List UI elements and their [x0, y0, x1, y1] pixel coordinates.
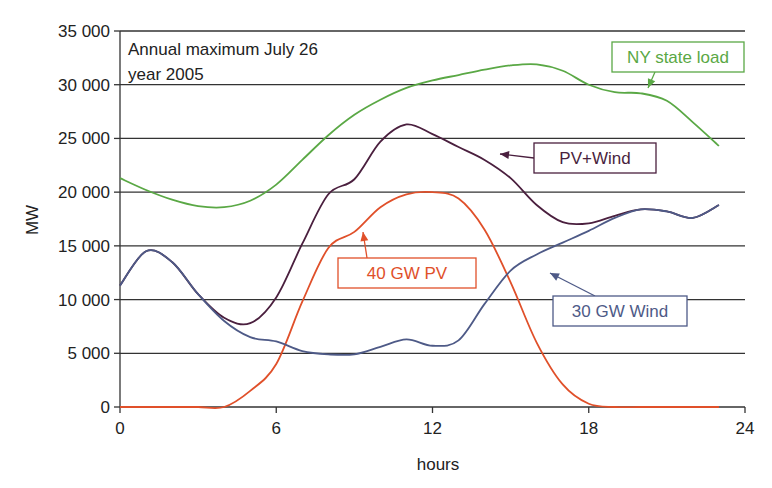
x-tick-label: 6 — [272, 419, 281, 438]
y-tick-label: 5 000 — [67, 344, 110, 363]
x-tick-labels: 06121824 — [115, 419, 754, 438]
callout-30-gw-wind: 30 GW Wind — [550, 273, 687, 326]
callout-text: NY state load — [627, 48, 729, 67]
callout-ny-state-load: NY state load — [612, 42, 744, 88]
series-lines — [120, 64, 719, 408]
y-tick-label: 20 000 — [58, 183, 110, 202]
callout-pv-wind: PV+Wind — [500, 143, 656, 173]
callout-40-gw-pv: 40 GW PV — [338, 232, 476, 288]
annotation-line-2: year 2005 — [128, 65, 204, 84]
x-axis-label: hours — [417, 455, 460, 474]
arrowhead-icon — [360, 232, 368, 242]
x-tick-label: 0 — [115, 419, 124, 438]
y-tick-label: 15 000 — [58, 237, 110, 256]
callout-text: 30 GW Wind — [572, 302, 668, 321]
y-tick-label: 0 — [101, 398, 110, 417]
y-tick-labels: 05 00010 00015 00020 00025 00030 00035 0… — [58, 22, 110, 417]
chart: 05 00010 00015 00020 00025 00030 00035 0… — [0, 0, 772, 488]
arrowhead-icon — [500, 151, 509, 159]
y-axis-label: MW — [23, 205, 42, 235]
x-tick-label: 24 — [736, 419, 755, 438]
annotation-line-1: Annual maximum July 26 — [128, 40, 318, 59]
y-tick-label: 35 000 — [58, 22, 110, 41]
x-tick-label: 12 — [423, 419, 442, 438]
y-tick-label: 10 000 — [58, 291, 110, 310]
y-tick-label: 25 000 — [58, 129, 110, 148]
axes — [114, 31, 745, 413]
x-tick-label: 18 — [579, 419, 598, 438]
callout-text: 40 GW PV — [367, 264, 448, 283]
series-line-ny-state-load — [120, 64, 719, 208]
callout-text: PV+Wind — [559, 149, 630, 168]
y-tick-label: 30 000 — [58, 76, 110, 95]
